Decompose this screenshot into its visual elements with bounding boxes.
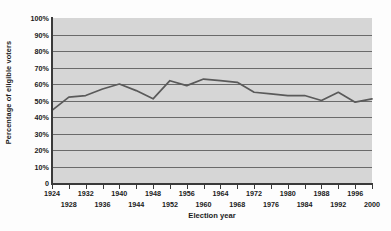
x-axis-tick-mark <box>69 183 70 189</box>
x-axis-tick-mark <box>204 183 205 189</box>
x-axis-tick-label: 1968 <box>229 200 245 209</box>
x-axis-tick-label: 1944 <box>128 200 144 209</box>
x-axis-tick-mark <box>103 183 104 189</box>
y-axis-line <box>51 17 53 184</box>
x-axis-title: Election year <box>52 211 372 220</box>
y-axis-tick-label: 90% <box>18 30 52 39</box>
y-axis-tick-label: 100% <box>18 14 52 23</box>
y-axis-tick-label: 30% <box>18 129 52 138</box>
x-axis-tick-label: 1924 <box>44 189 60 198</box>
y-axis-tick-label: 70% <box>18 63 52 72</box>
y-axis-tick-label: 40% <box>18 113 52 122</box>
voter-turnout-line <box>52 79 372 110</box>
x-axis-tick-label: 1972 <box>246 189 262 198</box>
y-axis-tick-label: 80% <box>18 47 52 56</box>
x-axis-tick-label: 1948 <box>145 189 161 198</box>
y-axis-tick-label: 20% <box>18 146 52 155</box>
x-axis-tick-mark <box>305 183 306 189</box>
x-axis-tick-label: 1988 <box>313 189 329 198</box>
x-axis-tick-label: 1932 <box>78 189 94 198</box>
x-axis-tick-label: 1960 <box>196 200 212 209</box>
x-axis-tick-label: 1936 <box>95 200 111 209</box>
x-axis-tick-mark <box>338 183 339 189</box>
x-axis-tick-label: 1996 <box>347 189 363 198</box>
chart-figure: Percentage of eligible voters 100%90%80%… <box>0 0 391 231</box>
x-axis-tick-mark <box>271 183 272 189</box>
x-axis-tick-mark <box>372 183 373 189</box>
x-axis-tick-label: 1952 <box>162 200 178 209</box>
y-axis-tick-label: 50% <box>18 96 52 105</box>
x-axis-tick-label: 1928 <box>61 200 77 209</box>
x-axis-tick-mark <box>237 183 238 189</box>
x-axis-tick-label: 1964 <box>212 189 228 198</box>
x-axis-tick-mark <box>170 183 171 189</box>
x-axis-tick-label: 2000 <box>364 200 380 209</box>
y-axis-tick-label: 60% <box>18 80 52 89</box>
y-axis-tick-label: 0 <box>18 179 52 188</box>
x-axis-line <box>51 183 373 185</box>
x-axis-tick-label: 1940 <box>111 189 127 198</box>
data-line-layer <box>52 18 372 183</box>
x-axis-tick-label: 1992 <box>330 200 346 209</box>
x-axis-tick-label: 1980 <box>280 189 296 198</box>
y-axis-title-text: Percentage of eligible voters <box>5 41 14 145</box>
x-axis-tick-label: 1984 <box>297 200 313 209</box>
y-axis-title: Percentage of eligible voters <box>0 0 18 185</box>
x-axis-tick-label: 1956 <box>179 189 195 198</box>
x-axis-tick-label: 1976 <box>263 200 279 209</box>
x-axis-tick-mark <box>136 183 137 189</box>
y-axis-tick-label: 10% <box>18 162 52 171</box>
